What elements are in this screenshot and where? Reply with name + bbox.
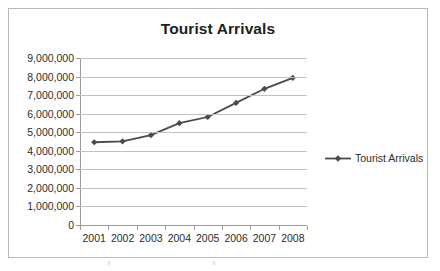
x-axis-tick	[307, 226, 308, 230]
y-axis-tick-label: 7,000,000	[27, 89, 74, 101]
y-axis-tick-label: 5,000,000	[27, 126, 74, 138]
y-axis-tick	[76, 114, 80, 115]
y-axis-labels: 01,000,0002,000,0003,000,0004,000,0005,0…	[9, 9, 77, 257]
series-tourist-arrivals	[80, 58, 307, 225]
gridline	[80, 206, 307, 207]
gridline	[80, 169, 307, 170]
y-axis-tick	[76, 169, 80, 170]
gridline	[80, 58, 307, 59]
chart-legend: Tourist Arrivals	[325, 152, 423, 164]
gridline	[80, 188, 307, 189]
legend-label: Tourist Arrivals	[355, 152, 423, 164]
y-axis-tick	[76, 58, 80, 59]
x-axis-tick-label: 2007	[253, 232, 276, 244]
y-axis-tick-label: 3,000,000	[27, 163, 74, 175]
x-axis-tick	[222, 226, 223, 230]
y-axis-tick	[76, 151, 80, 152]
y-axis-tick-label: 6,000,000	[27, 108, 74, 120]
x-axis-tick-label: 2006	[224, 232, 247, 244]
y-axis-tick-label: 1,000,000	[27, 200, 74, 212]
x-axis-tick	[194, 226, 195, 230]
data-point-marker	[205, 114, 211, 120]
gridline	[80, 151, 307, 152]
x-axis-tick	[165, 226, 166, 230]
data-point-marker	[119, 138, 125, 144]
x-axis-tick-label: 2005	[196, 232, 219, 244]
y-axis-tick-label: 0	[68, 219, 74, 231]
y-axis-tick	[76, 95, 80, 96]
x-axis-tick-label: 2002	[111, 232, 134, 244]
gridline	[80, 132, 307, 133]
legend-diamond	[335, 155, 341, 162]
gridline	[80, 95, 307, 96]
x-axis-tick	[137, 226, 138, 230]
x-axis-tick	[108, 226, 109, 230]
y-axis-tick-label: 9,000,000	[27, 52, 74, 64]
scan-artifact	[213, 261, 215, 265]
x-axis-tick-label: 2008	[281, 232, 304, 244]
y-axis-tick	[76, 206, 80, 207]
x-axis-tick-label: 2003	[139, 232, 162, 244]
data-point-marker	[261, 86, 267, 92]
legend-marker-icon	[325, 153, 351, 164]
data-point-marker	[176, 120, 182, 126]
y-axis-tick	[76, 132, 80, 133]
x-axis-tick-label: 2001	[83, 232, 106, 244]
y-axis-tick-label: 4,000,000	[27, 145, 74, 157]
x-axis-tick	[279, 226, 280, 230]
gridline	[80, 77, 307, 78]
x-axis-tick-label: 2004	[168, 232, 191, 244]
y-axis-tick-label: 8,000,000	[27, 71, 74, 83]
x-axis-tick	[80, 226, 81, 230]
y-axis-tick	[76, 77, 80, 78]
x-axis-tick	[250, 226, 251, 230]
y-axis-tick	[76, 188, 80, 189]
data-point-marker	[233, 100, 239, 106]
plot-area	[80, 58, 307, 225]
y-axis-tick-label: 2,000,000	[27, 182, 74, 194]
gridline	[80, 114, 307, 115]
chart-figure-frame: Tourist Arrivals 01,000,0002,000,0003,00…	[8, 8, 428, 258]
scan-artifact	[108, 261, 110, 265]
data-point-marker	[91, 139, 97, 145]
